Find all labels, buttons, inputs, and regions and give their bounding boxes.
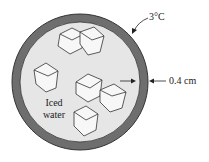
temperature-label: 3°C bbox=[149, 12, 165, 22]
contents-label-line1: Iced bbox=[38, 98, 70, 108]
temperature-leader-line bbox=[134, 18, 148, 31]
thickness-arrowhead-outer-icon bbox=[149, 79, 154, 84]
contents-label-line2: water bbox=[36, 110, 72, 120]
temperature-arrowhead-icon bbox=[132, 28, 137, 34]
thickness-label: 0.4 cm bbox=[169, 76, 196, 86]
